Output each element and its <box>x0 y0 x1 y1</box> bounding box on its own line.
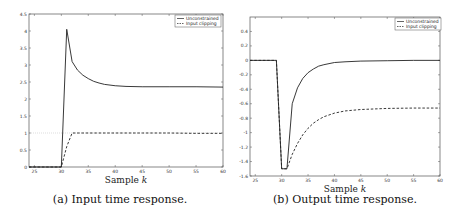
y-tick-label: 1.5 <box>20 114 27 119</box>
x-tick-label: 55 <box>193 169 199 174</box>
x-tick-label: 60 <box>220 169 226 174</box>
x-tick-label: 60 <box>437 178 443 183</box>
y-tick-label: -0.6 <box>239 101 248 106</box>
x-tick-label: 35 <box>85 169 91 174</box>
x-tick-label: 40 <box>112 169 118 174</box>
legend-label: Input clipping <box>406 24 437 29</box>
panel-output-time-response: 2530354045505560-1.6-1.4-1.2-1-0.8-0.6-0… <box>239 17 443 206</box>
y-tick-label: 3 <box>24 63 27 68</box>
y-tick-label: -1.6 <box>239 174 248 179</box>
x-tick-label: 50 <box>166 169 172 174</box>
legend-label: Input clipping <box>186 21 217 26</box>
plot-frame <box>29 14 223 167</box>
x-axis-label: Sample k <box>105 175 147 185</box>
y-tick-label: 3.5 <box>20 46 27 51</box>
y-tick-label: 4 <box>24 29 27 34</box>
x-tick-label: 50 <box>384 178 390 183</box>
y-tick-label: -1.4 <box>239 159 248 164</box>
figure-caption: (a) Input time response. <box>53 193 187 206</box>
y-tick-label: -1.2 <box>239 145 248 150</box>
x-tick-label: 30 <box>58 169 64 174</box>
figure-caption: (b) Output time response. <box>273 193 417 206</box>
x-tick-label: 25 <box>252 178 258 183</box>
panel-input-time-response: 253035404550556000.511.522.533.544.5Unco… <box>20 12 226 207</box>
y-tick-label: -0.4 <box>239 87 248 92</box>
x-tick-label: 40 <box>332 178 338 183</box>
y-tick-label: 0 <box>245 58 248 63</box>
y-tick-label: 0 <box>24 165 27 170</box>
y-tick-label: 4.5 <box>20 12 27 17</box>
figure: 253035404550556000.511.522.533.544.5Unco… <box>0 0 460 214</box>
series-unconstrained <box>29 29 223 167</box>
x-tick-label: 35 <box>305 178 311 183</box>
series-unconstrained <box>250 60 440 168</box>
x-tick-label: 30 <box>279 178 285 183</box>
series-input-clipping <box>250 60 440 168</box>
y-tick-label: 0.4 <box>241 29 248 34</box>
series-input-clipping <box>29 133 223 167</box>
x-tick-label: 55 <box>411 178 417 183</box>
y-tick-label: 2 <box>24 97 27 102</box>
y-tick-label: -0.2 <box>239 72 248 77</box>
y-tick-label: -0.8 <box>239 116 248 121</box>
x-tick-label: 25 <box>32 169 38 174</box>
x-tick-label: 45 <box>139 169 145 174</box>
y-tick-label: 0.2 <box>241 43 248 48</box>
x-tick-label: 45 <box>358 178 364 183</box>
y-tick-label: 2.5 <box>20 80 27 85</box>
y-tick-label: -1 <box>244 130 249 135</box>
y-tick-label: 0.5 <box>20 148 27 153</box>
y-tick-label: 1 <box>24 131 27 136</box>
